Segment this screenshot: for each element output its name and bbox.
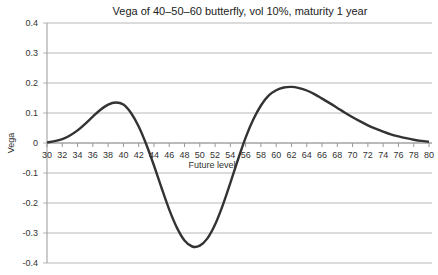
x-tick-label: 70 [348, 150, 358, 160]
y-tick-label: -0.1 [22, 168, 38, 178]
x-axis-label: Future level [188, 160, 235, 170]
x-tick-label: 32 [57, 150, 67, 160]
x-tick-label: 48 [180, 150, 190, 160]
y-axis-label: Vega [6, 133, 16, 154]
y-tick-label: 0.4 [25, 18, 38, 28]
x-tick-label: 34 [73, 150, 83, 160]
y-tick-label: 0 [33, 138, 38, 148]
x-tick-label: 66 [317, 150, 327, 160]
x-tick-label: 78 [409, 150, 419, 160]
x-tick-label: 40 [118, 150, 128, 160]
x-tick-label: 72 [363, 150, 373, 160]
y-tick-label: 0.3 [25, 48, 38, 58]
x-tick-label: 74 [378, 150, 388, 160]
x-tick-label: 60 [271, 150, 281, 160]
x-tick-label: 58 [256, 150, 266, 160]
x-tick-label: 50 [195, 150, 205, 160]
x-tick-label: 64 [302, 150, 312, 160]
x-tick-label: 62 [286, 150, 296, 160]
y-axis-ticks: 0.40.30.20.10-0.1-0.2-0.3-0.4 [22, 18, 38, 268]
x-tick-label: 68 [332, 150, 342, 160]
x-tick-label: 54 [225, 150, 235, 160]
y-tick-label: -0.3 [22, 228, 38, 238]
x-tick-label: 80 [424, 150, 434, 160]
vega-curve [47, 87, 429, 247]
y-tick-label: 0.2 [25, 78, 38, 88]
chart-title: Vega of 40–50–60 butterfly, vol 10%, mat… [113, 5, 368, 17]
x-tick-label: 46 [164, 150, 174, 160]
vega-chart: Vega of 40–50–60 butterfly, vol 10%, mat… [0, 0, 438, 275]
x-tick-label: 38 [103, 150, 113, 160]
y-tick-label: -0.4 [22, 258, 38, 268]
x-tick-label: 52 [210, 150, 220, 160]
y-tick-label: -0.2 [22, 198, 38, 208]
x-tick-label: 76 [393, 150, 403, 160]
x-tick-label: 30 [42, 150, 52, 160]
x-tick-label: 36 [88, 150, 98, 160]
y-tick-label: 0.1 [25, 108, 38, 118]
x-tick-label: 56 [241, 150, 251, 160]
x-tick-label: 42 [134, 150, 144, 160]
